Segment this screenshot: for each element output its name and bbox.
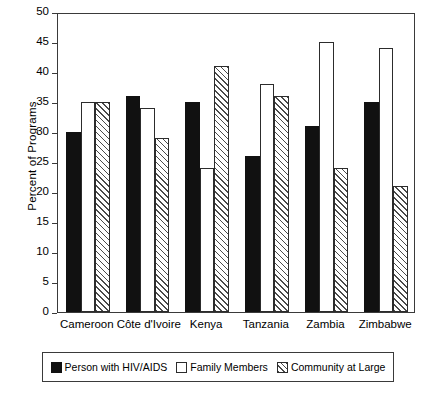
- legend-item: Community at Large: [277, 361, 386, 373]
- bar: [379, 48, 394, 312]
- x-axis-label: Côte d'Ivoire: [117, 318, 177, 330]
- bar: [274, 96, 289, 312]
- bar: [185, 102, 200, 312]
- bar-chart-figure: Percent of Programs 05101520253035404550…: [0, 0, 438, 398]
- bar: [200, 168, 215, 312]
- bar-group: [185, 14, 229, 312]
- x-axis-label: Tanzania: [236, 318, 296, 330]
- legend-label: Community at Large: [291, 361, 386, 373]
- bar: [364, 102, 379, 312]
- x-axis-label: Kenya: [176, 318, 236, 330]
- bar: [155, 138, 170, 312]
- bar: [81, 102, 96, 312]
- bar: [305, 126, 320, 312]
- bar: [393, 186, 408, 312]
- bar: [140, 108, 155, 312]
- y-tick-label: 0: [43, 305, 49, 317]
- chart-legend: Person with HIV/AIDSFamily MembersCommun…: [42, 352, 394, 382]
- bar-group: [126, 14, 170, 312]
- bar: [66, 132, 81, 312]
- bar: [214, 66, 229, 312]
- bar-group: [364, 14, 408, 312]
- legend-item: Family Members: [176, 361, 268, 373]
- x-axis-label: Zambia: [296, 318, 356, 330]
- bar: [319, 42, 334, 312]
- legend-swatch: [277, 362, 288, 373]
- y-tick-label: 15: [36, 215, 49, 227]
- legend-item: Person with HIV/AIDS: [51, 361, 168, 373]
- bar-group: [66, 14, 110, 312]
- bar-group: [305, 14, 349, 312]
- y-tick-label: 35: [36, 95, 49, 107]
- bar: [245, 156, 260, 312]
- y-tick-label: 45: [36, 35, 49, 47]
- y-tick-label: 50: [36, 5, 49, 17]
- legend-label: Person with HIV/AIDS: [65, 361, 168, 373]
- bars-layer: [58, 14, 414, 312]
- y-tick-label: 20: [36, 185, 49, 197]
- x-axis-label: Cameroon: [57, 318, 117, 330]
- y-tick-label: 10: [36, 245, 49, 257]
- bar: [334, 168, 349, 312]
- bar: [126, 96, 141, 312]
- plot-area: [57, 13, 415, 313]
- x-axis-label: Zimbabwe: [355, 318, 415, 330]
- y-tick-label: 30: [36, 125, 49, 137]
- bar-group: [245, 14, 289, 312]
- legend-swatch: [176, 362, 187, 373]
- legend-swatch: [51, 362, 62, 373]
- y-tick-label: 5: [43, 275, 49, 287]
- y-tick-label: 25: [36, 155, 49, 167]
- y-tick-label: 40: [36, 65, 49, 77]
- bar: [260, 84, 275, 312]
- bar: [95, 102, 110, 312]
- legend-label: Family Members: [190, 361, 268, 373]
